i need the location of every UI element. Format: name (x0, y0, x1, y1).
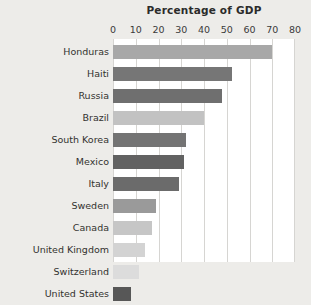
y-axis-label: Italy (88, 173, 109, 195)
bar (113, 133, 186, 147)
bar-row (113, 151, 295, 173)
y-axis-label: United Kingdom (33, 239, 109, 261)
y-axis-label: South Korea (51, 129, 109, 151)
y-axis-label: Mexico (76, 151, 109, 173)
x-axis-tick-labels: 01020304050607080 (113, 24, 295, 37)
y-axis-label: Honduras (63, 41, 109, 63)
bar-row (113, 85, 295, 107)
x-tick-label: 0 (110, 24, 116, 35)
bar (113, 177, 179, 191)
bar-row (113, 129, 295, 151)
bar-row (113, 107, 295, 129)
bar-row (113, 63, 295, 85)
bar (113, 45, 272, 59)
bar (113, 265, 139, 279)
bar (113, 243, 145, 257)
x-tick-label: 10 (130, 24, 142, 35)
bar-row (113, 239, 295, 261)
chart-title: Percentage of GDP (113, 4, 295, 16)
plot-area (113, 39, 295, 262)
bar-row (113, 283, 295, 305)
x-tick-label: 40 (198, 24, 210, 35)
bar-row (113, 217, 295, 239)
bar-row (113, 261, 295, 283)
x-tick-label: 60 (243, 24, 255, 35)
y-axis-label: Haiti (87, 63, 109, 85)
y-axis-label: Canada (73, 217, 109, 239)
y-axis-label: Brazil (82, 107, 109, 129)
y-axis-label: Switzerland (54, 261, 109, 283)
x-tick-label: 20 (152, 24, 164, 35)
bar (113, 111, 204, 125)
x-tick-label: 50 (221, 24, 233, 35)
x-tick-label: 80 (289, 24, 301, 35)
bar (113, 155, 184, 169)
bar-row (113, 173, 295, 195)
x-tick-label: 30 (175, 24, 187, 35)
bar (113, 89, 222, 103)
y-axis-category-labels: HondurasHaitiRussiaBrazilSouth KoreaMexi… (0, 39, 109, 262)
y-axis-label: Sweden (71, 195, 109, 217)
bar (113, 287, 131, 301)
bar-row (113, 41, 295, 63)
bar (113, 221, 152, 235)
bar-row (113, 195, 295, 217)
bars-layer (113, 39, 295, 262)
y-axis-label: United States (45, 283, 109, 305)
x-tick-label: 70 (266, 24, 278, 35)
bar (113, 199, 156, 213)
bar (113, 67, 232, 81)
y-axis-label: Russia (78, 85, 109, 107)
